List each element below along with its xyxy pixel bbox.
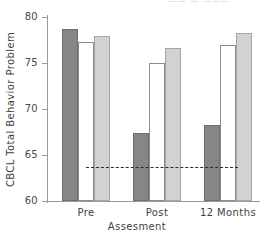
y-tick-mark bbox=[42, 17, 47, 18]
y-tick-mark bbox=[42, 155, 47, 156]
clipped-header-text: —— — ——— bbox=[168, 0, 231, 3]
x-tick-label: 12 Months bbox=[178, 207, 274, 218]
bar bbox=[78, 42, 94, 201]
y-tick-label: 60 bbox=[4, 195, 38, 206]
x-axis-line bbox=[47, 201, 260, 202]
bar-group bbox=[133, 17, 181, 201]
y-tick-label: 70 bbox=[4, 103, 38, 114]
bar bbox=[220, 45, 236, 201]
bar bbox=[204, 125, 220, 201]
chart-figure: —— — ——— CBCL Total Behavior Problem 606… bbox=[0, 0, 274, 236]
y-tick-label: 75 bbox=[4, 57, 38, 68]
bar bbox=[236, 33, 252, 201]
y-axis-line bbox=[47, 15, 48, 203]
y-tick-mark bbox=[42, 109, 47, 110]
reference-line bbox=[86, 167, 238, 168]
y-tick-mark bbox=[42, 201, 47, 202]
bar bbox=[94, 36, 110, 201]
y-tick-label: 80 bbox=[4, 11, 38, 22]
bar bbox=[62, 29, 78, 201]
y-tick-label: 65 bbox=[4, 149, 38, 160]
bar-group bbox=[204, 17, 252, 201]
bar bbox=[165, 48, 181, 201]
bar-group bbox=[62, 17, 110, 201]
bar bbox=[149, 63, 165, 201]
y-tick-mark bbox=[42, 63, 47, 64]
x-axis-title: Assesment bbox=[0, 221, 274, 232]
